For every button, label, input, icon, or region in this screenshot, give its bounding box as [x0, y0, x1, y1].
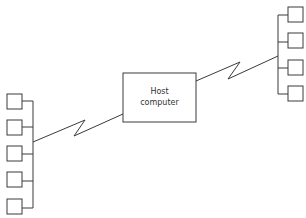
left-terminal-cluster [7, 94, 33, 214]
terminal-icon [7, 199, 22, 214]
terminal-icon [7, 94, 22, 109]
right-terminal-cluster [278, 7, 303, 101]
terminal-icon [7, 146, 22, 161]
host-label-line1: Host [150, 87, 168, 96]
terminal-icon [288, 86, 303, 101]
left-terminal-1 [7, 94, 33, 109]
right-terminal-3 [278, 60, 303, 75]
terminal-icon [288, 7, 303, 22]
right-terminal-4 [278, 86, 303, 101]
left-terminal-2 [7, 120, 33, 135]
left-terminal-3 [7, 146, 33, 161]
terminal-icon [7, 172, 22, 187]
left-terminal-4 [7, 172, 33, 187]
network-diagram: Host computer [0, 0, 306, 218]
terminal-icon [288, 33, 303, 48]
right-terminal-1 [278, 7, 303, 22]
host-label-line2: computer [140, 98, 179, 107]
terminal-icon [288, 60, 303, 75]
left-communication-link [33, 114, 123, 142]
right-terminal-2 [278, 33, 303, 48]
host-computer: Host computer [123, 73, 196, 122]
terminal-icon [7, 120, 22, 135]
right-communication-link [196, 56, 278, 81]
left-terminal-5 [7, 199, 33, 214]
